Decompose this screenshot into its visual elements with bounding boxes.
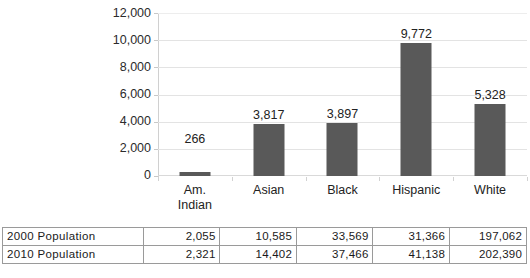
x-label-am-indian: Am. Indian xyxy=(158,183,232,213)
y-tick-label-10000: 10,000 xyxy=(89,34,151,47)
table-cell-2000-asian: 10,585 xyxy=(220,228,297,246)
bar-slot-black: 3,897 xyxy=(306,13,380,176)
table-cell-2000-am-indian: 2,055 xyxy=(144,228,220,246)
x-label-white-line1: White xyxy=(453,183,527,198)
y-axis-tick-labels: 12,000 10,000 8,000 6,000 4,000 2,000 0 xyxy=(85,0,151,190)
x-tick-mark-2 xyxy=(306,177,307,181)
x-label-hispanic-line1: Hispanic xyxy=(379,183,453,198)
table-row-label-2000: 2000 Population xyxy=(3,228,144,246)
y-tick-label-0: 0 xyxy=(89,169,151,182)
bar-value-white: 5,328 xyxy=(474,89,505,102)
y-tick-label-12000: 12,000 xyxy=(89,7,151,20)
bar-white[interactable] xyxy=(475,104,506,176)
table-cell-2010-asian: 14,402 xyxy=(220,246,297,264)
table-row-label-2010: 2010 Population xyxy=(3,246,144,264)
bar-value-black: 3,897 xyxy=(327,108,358,121)
bar-value-asian: 3,817 xyxy=(253,109,284,122)
y-tick-label-2000: 2,000 xyxy=(89,142,151,155)
bar-slot-hispanic: 9,772 xyxy=(379,13,453,176)
x-tick-mark-1 xyxy=(232,177,233,181)
x-label-white: White xyxy=(453,183,527,198)
x-label-asian: Asian xyxy=(232,183,306,198)
table-cell-2000-white: 197,062 xyxy=(449,228,526,246)
bar-am-indian[interactable] xyxy=(179,172,210,176)
bar-value-am-indian: 266 xyxy=(184,133,205,146)
table-cell-2010-white: 202,390 xyxy=(449,246,526,264)
bar-black[interactable] xyxy=(327,123,358,176)
bar-slot-am-indian: 266 xyxy=(158,13,232,176)
y-tick-label-6000: 6,000 xyxy=(89,88,151,101)
x-label-am-indian-line1: Am. xyxy=(158,183,232,198)
x-tick-mark-3 xyxy=(379,177,380,181)
bar-slot-white: 5,328 xyxy=(453,13,527,176)
population-data-table: 2000 Population 2,055 10,585 33,569 31,3… xyxy=(2,227,527,264)
chart-page: 12,000 10,000 8,000 6,000 4,000 2,000 0 xyxy=(0,0,530,278)
x-axis-category-labels: Am. Indian Asian Black Hispanic White xyxy=(158,183,527,225)
table-row: 2010 Population 2,321 14,402 37,466 41,1… xyxy=(3,246,527,264)
bar-value-hispanic: 9,772 xyxy=(401,28,432,41)
table-cell-2000-hispanic: 31,366 xyxy=(373,228,450,246)
x-label-asian-line1: Asian xyxy=(232,183,306,198)
x-label-black: Black xyxy=(306,183,380,198)
x-label-am-indian-line2: Indian xyxy=(158,198,232,213)
bar-asian[interactable] xyxy=(253,124,284,176)
table-cell-2010-hispanic: 41,138 xyxy=(373,246,450,264)
bar-chart: 12,000 10,000 8,000 6,000 4,000 2,000 0 xyxy=(0,0,530,226)
x-tick-mark-5 xyxy=(527,177,528,181)
table-cell-2010-black: 37,466 xyxy=(296,246,373,264)
x-label-hispanic: Hispanic xyxy=(379,183,453,198)
x-tick-mark-0 xyxy=(158,177,159,181)
plot-area: 266 3,817 3,897 9,772 5,328 xyxy=(158,13,527,176)
bar-slot-asian: 3,817 xyxy=(232,13,306,176)
x-label-black-line1: Black xyxy=(306,183,380,198)
y-tick-label-4000: 4,000 xyxy=(89,115,151,128)
x-tick-mark-4 xyxy=(453,177,454,181)
y-tick-label-8000: 8,000 xyxy=(89,61,151,74)
table-cell-2000-black: 33,569 xyxy=(296,228,373,246)
bar-hispanic[interactable] xyxy=(401,43,432,176)
table-row: 2000 Population 2,055 10,585 33,569 31,3… xyxy=(3,228,527,246)
table-cell-2010-am-indian: 2,321 xyxy=(144,246,220,264)
